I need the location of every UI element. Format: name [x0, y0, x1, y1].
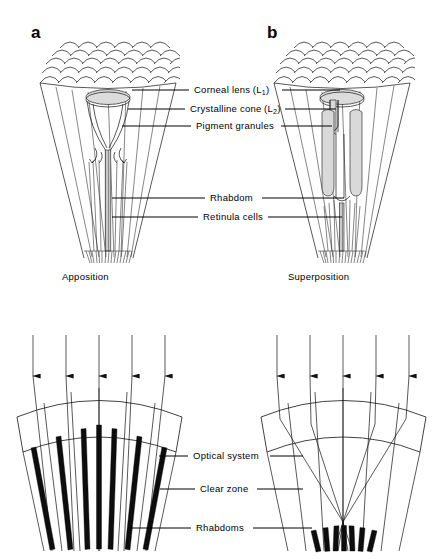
rhabdom-a	[105, 150, 111, 251]
label-rhabdom: Rhabdom	[210, 192, 253, 203]
block-edge-right-b	[367, 83, 410, 258]
incident-rays-left	[33, 335, 165, 376]
block-edge-left-a	[40, 83, 84, 258]
pigment-granules-right-a	[119, 148, 124, 163]
rhabdoms-left	[31, 425, 167, 550]
superposition-ommatidia-block: Superposition	[274, 42, 424, 282]
apposition-fan-diagram	[17, 335, 182, 551]
corneal-facet-array-a	[40, 42, 190, 83]
pigment-granules-inner-right-a	[114, 152, 117, 163]
block-front-rim-b	[274, 83, 410, 89]
label-pigment-granules: Pigment granules	[196, 120, 274, 131]
pigment-granules-inner-left-a	[99, 152, 102, 163]
panel-letter-a: a	[31, 23, 41, 42]
pigment-granules-left-b	[322, 110, 334, 197]
rhabdoms-right	[311, 526, 377, 553]
panel-letter-b: b	[267, 23, 277, 42]
figure-canvas: a b	[0, 0, 447, 559]
corneal-facet-array-b	[274, 42, 424, 83]
rhabdom-b	[340, 203, 345, 251]
caption-superposition: Superposition	[288, 271, 349, 282]
apposition-ommatidia-block: Apposition	[40, 42, 190, 282]
incident-rays-right	[277, 335, 409, 376]
label-retinula-cells: Retinula cells	[203, 211, 263, 222]
compound-eye-figure: a b	[0, 0, 447, 559]
label-corneal-lens: Corneal lens(L1)	[194, 84, 269, 96]
ray-paths-right	[277, 376, 409, 551]
label-rhabdoms: Rhabdoms	[196, 522, 244, 533]
label-clear-zone: Clear zone	[200, 483, 248, 494]
caption-apposition: Apposition	[62, 271, 109, 282]
label-optical-system: Optical system	[193, 450, 259, 461]
superposition-fan-diagram	[261, 335, 426, 552]
label-crystalline-cone: Crystalline cone(L2)	[190, 103, 281, 115]
pigment-granules-right-b	[350, 110, 362, 197]
block-front-rim-a	[40, 83, 176, 89]
